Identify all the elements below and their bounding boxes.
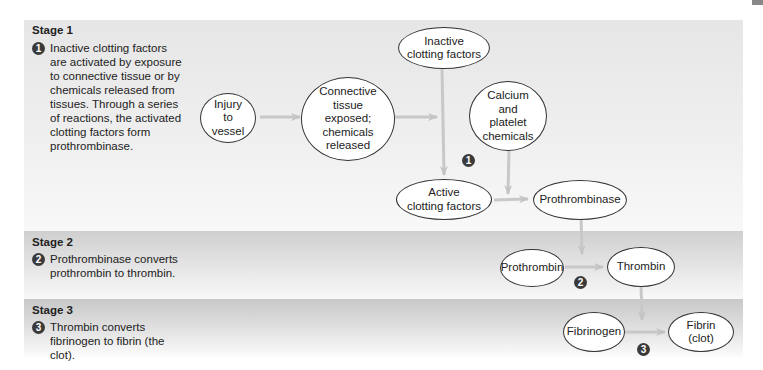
flow-arrows bbox=[0, 0, 763, 370]
node-injury-to-vessel: Injury to vessel bbox=[200, 93, 256, 143]
node-prothrombin: Prothrombin bbox=[500, 249, 564, 287]
node-thrombin: Thrombin bbox=[607, 247, 675, 287]
node-active-clotting-factors: Active clotting factors bbox=[396, 179, 492, 220]
flow-step-3-marker: 3 bbox=[637, 343, 650, 356]
flow-step-2-marker: 2 bbox=[574, 276, 587, 289]
node-calcium-platelet-chemicals: Calcium and platelet chemicals bbox=[469, 81, 547, 151]
node-connective-tissue-exposed: Connective tissue exposed; chemicals rel… bbox=[301, 77, 395, 161]
node-prothrombinase: Prothrombinase bbox=[533, 180, 627, 220]
flow-step-1-marker: 1 bbox=[462, 154, 475, 167]
node-fibrin-clot: Fibrin (clot) bbox=[668, 312, 734, 352]
node-fibrinogen: Fibrinogen bbox=[563, 312, 625, 352]
node-inactive-clotting-factors: Inactive clotting factors bbox=[398, 27, 490, 69]
